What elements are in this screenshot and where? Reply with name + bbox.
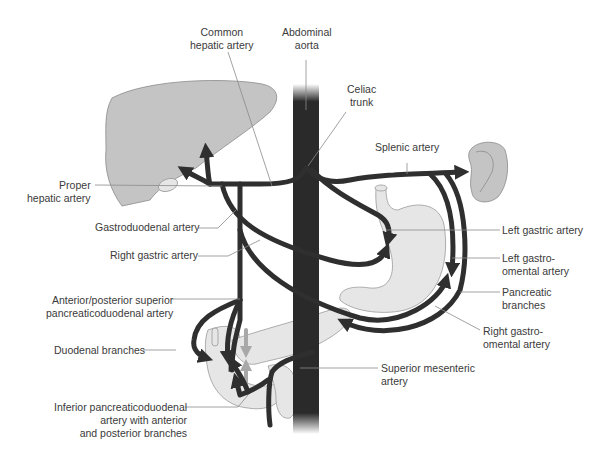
splenic-artery <box>306 168 462 182</box>
spleen <box>469 142 508 202</box>
label-splenic-artery: Splenic artery <box>375 141 439 154</box>
label-left-gastro-omental-artery: Left gastro- omental artery <box>502 252 569 278</box>
label-abdominal-aorta: Abdominal aorta <box>282 26 332 52</box>
label-duodenal-branches: Duodenal branches <box>54 344 145 357</box>
label-ant-post-sup-pancreaticoduodenal-artery: Anterior/posterior superior pancreaticod… <box>46 294 173 320</box>
label-left-gastric-artery: Left gastric artery <box>502 224 583 237</box>
stomach <box>340 188 446 312</box>
label-proper-hepatic-artery: Proper hepatic artery <box>27 179 91 205</box>
label-superior-mesenteric-artery: Superior mesenteric artery <box>381 362 475 388</box>
label-celiac-trunk: Celiac trunk <box>347 83 376 109</box>
label-gastroduodenal-artery: Gastroduodenal artery <box>95 221 199 234</box>
label-inferior-pancreaticoduodenal-artery: Inferior pancreaticoduodenal artery with… <box>54 401 187 440</box>
label-common-hepatic-artery: Common hepatic artery <box>190 26 254 52</box>
pancreas <box>232 308 350 364</box>
esophagus-end <box>375 185 387 191</box>
label-right-gastric-artery: Right gastric artery <box>110 249 198 262</box>
label-pancreatic-branches: Pancreatic branches <box>502 286 552 312</box>
label-right-gastro-omental-artery: Right gastro- omental artery <box>483 325 550 351</box>
abdominal-aorta <box>293 84 319 434</box>
liver <box>106 81 277 206</box>
common-hepatic-artery <box>210 168 306 184</box>
